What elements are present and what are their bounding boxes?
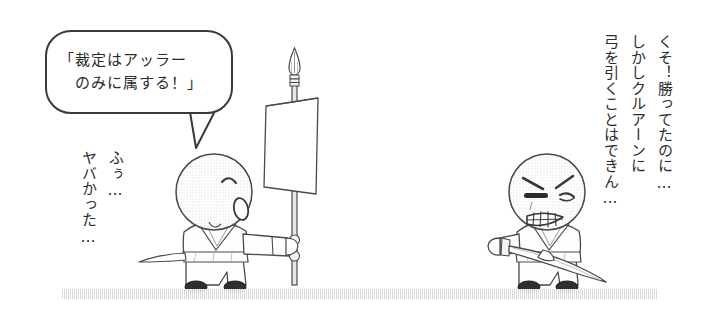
- speech-balloon-text: 「裁定はアッラー のみに属する！」: [45, 30, 233, 114]
- comic-panel: 「裁定はアッラー のみに属する！」 ふぅ… ヤバかった… くそ！勝ってたのに… …: [0, 0, 711, 323]
- spear-head-icon: [289, 48, 300, 86]
- speech-balloon-tail: [190, 112, 214, 148]
- thought-column-2: しかしクルアーンに: [627, 34, 648, 290]
- mutter-column-1: ふぅ…: [105, 150, 126, 290]
- ground-strip: [62, 289, 658, 299]
- thought-column-3: 弓を引くことはできん…: [600, 34, 621, 290]
- right-character: [488, 154, 606, 293]
- thought-column-1: くそ！勝ってたのに…: [654, 34, 675, 290]
- left-character-mutter: ふぅ… ヤバかった…: [78, 150, 126, 290]
- balloon-line-2: のみに属する！」: [59, 72, 233, 95]
- blank-banner: [264, 98, 318, 194]
- balloon-line-1: 「裁定はアッラー: [59, 49, 233, 72]
- mutter-column-2: ヤバかった…: [78, 150, 99, 290]
- right-character-thought: くそ！勝ってたのに… しかしクルアーンに 弓を引くことはできん…: [600, 34, 675, 290]
